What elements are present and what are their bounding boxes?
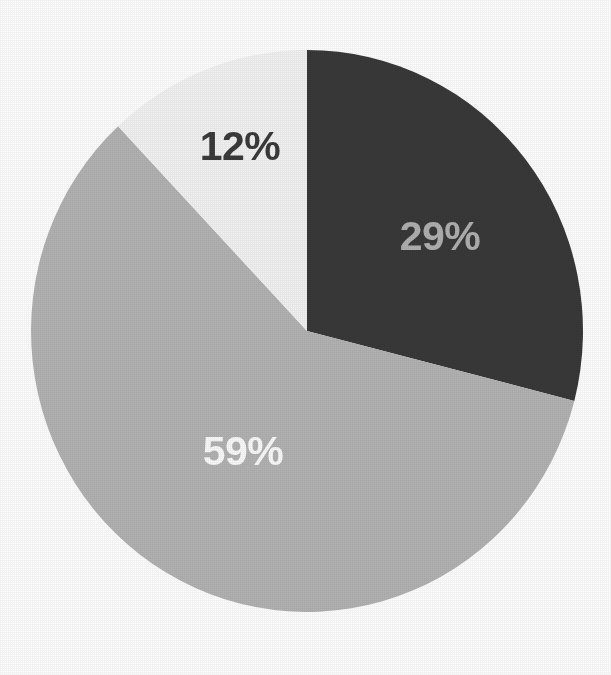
pie-chart-svg xyxy=(0,0,611,675)
pie-chart: 29% 59% 12% xyxy=(0,0,611,675)
pie-slice-group xyxy=(31,50,583,612)
